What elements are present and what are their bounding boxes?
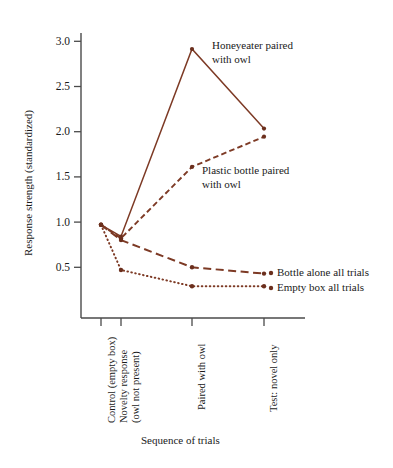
series-line-bottle-alone bbox=[101, 225, 264, 274]
x-tick-label-novelty-line1: Novelty response bbox=[118, 350, 129, 423]
annotation-honeyeater: Honeyeater paired with owl bbox=[212, 38, 293, 66]
annotation-honeyeater-line1: Honeyeater paired bbox=[212, 38, 293, 52]
x-axis-ticks bbox=[101, 318, 264, 326]
x-tick-label-paired-with-owl: Paired with owl bbox=[196, 344, 207, 411]
annotation-honeyeater-line2: with owl bbox=[212, 52, 293, 66]
x-tick-label-novelty-line2: (owl not present) bbox=[130, 351, 141, 423]
x-axis-title: Sequence of trials bbox=[141, 434, 220, 446]
legend-marker-bottle-alone bbox=[269, 271, 273, 275]
y-tick-label-1-5: 1.5 bbox=[44, 170, 70, 182]
annotation-plastic-bottle: Plastic bottle paired with owl bbox=[202, 163, 289, 191]
annotation-plastic-bottle-line2: with owl bbox=[202, 177, 289, 191]
y-tick-label-0-5: 0.5 bbox=[44, 261, 70, 273]
series-label-empty-box: Empty box all trials bbox=[277, 281, 364, 293]
y-tick-label-2-0: 2.0 bbox=[44, 125, 70, 137]
y-tick-label-1-0: 1.0 bbox=[44, 216, 70, 228]
legend-marker-empty-box bbox=[269, 286, 273, 290]
y-axis-ticks bbox=[74, 41, 81, 267]
y-axis-title: Response strength (standardized) bbox=[22, 110, 34, 256]
series-line-honeyeater bbox=[101, 49, 264, 237]
series-label-bottle-alone: Bottle alone all trials bbox=[277, 266, 369, 278]
y-tick-label-3-0: 3.0 bbox=[44, 35, 70, 47]
series-markers-empty-box bbox=[99, 223, 266, 289]
x-tick-label-control: Control (empty box) bbox=[106, 337, 117, 423]
x-tick-label-test-novel-only: Test: novel only bbox=[268, 344, 279, 412]
annotation-plastic-bottle-line1: Plastic bottle paired bbox=[202, 163, 289, 177]
chart-figure: 3.0 2.5 2.0 1.5 1.0 0.5 Response strengt… bbox=[0, 0, 393, 468]
y-tick-label-2-5: 2.5 bbox=[44, 80, 70, 92]
